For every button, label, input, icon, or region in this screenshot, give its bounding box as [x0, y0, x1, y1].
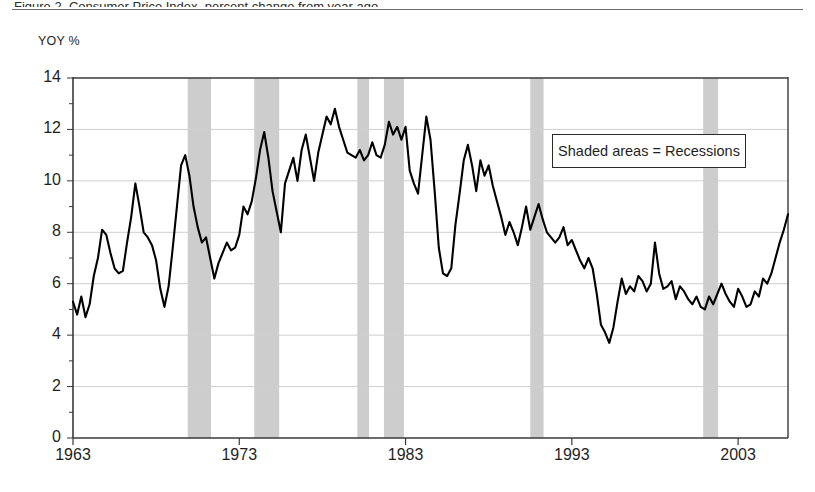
x-tick-label: 1963: [38, 447, 108, 463]
y-tick-label: 0: [21, 429, 61, 445]
y-tick-label: 10: [21, 172, 61, 188]
y-tick-label: 8: [21, 223, 61, 239]
x-tick-label: 2003: [703, 447, 773, 463]
y-tick-label: 4: [21, 326, 61, 342]
y-tick-label: 6: [21, 275, 61, 291]
y-tick-label: 2: [21, 378, 61, 394]
figure-container: Figure 2. Consumer Price Index, percent …: [0, 0, 815, 492]
recession-band: [254, 78, 279, 438]
line-chart-plot: [0, 0, 815, 492]
recession-band: [188, 78, 211, 438]
recession-band: [703, 78, 718, 438]
y-tick-label: 12: [21, 120, 61, 136]
legend-shaded-areas: Shaded areas = Recessions: [552, 134, 746, 168]
x-tick-label: 1983: [371, 447, 441, 463]
x-tick-label: 1973: [204, 447, 274, 463]
y-tick-label: 14: [21, 69, 61, 85]
x-tick-label: 1993: [537, 447, 607, 463]
recession-band: [357, 78, 369, 438]
legend-label: Shaded areas = Recessions: [558, 143, 740, 159]
recession-band: [530, 78, 543, 438]
